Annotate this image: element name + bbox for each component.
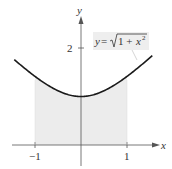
chart-svg: x y −1 1 2 y = 1 + x 2 — [0, 0, 172, 169]
equation-leader-line — [132, 50, 137, 60]
eq-x: x — [135, 35, 141, 47]
eq-y: y — [94, 35, 100, 47]
eq-one-plus: 1 + — [118, 35, 132, 47]
x-axis-arrow-icon — [152, 143, 160, 148]
y-axis-label: y — [76, 4, 82, 16]
chart-figure: x y −1 1 2 y = 1 + x 2 — [0, 0, 172, 169]
x-axis-label: x — [160, 139, 166, 151]
equation-label: y = 1 + x 2 — [94, 34, 147, 47]
eq-exponent: 2 — [142, 34, 146, 42]
x-tick-label-neg1: −1 — [29, 150, 41, 162]
y-axis-arrow-icon — [79, 16, 84, 24]
x-tick-label-1: 1 — [124, 150, 130, 162]
eq-equals: = — [101, 35, 107, 47]
y-tick-label-2: 2 — [67, 42, 73, 54]
